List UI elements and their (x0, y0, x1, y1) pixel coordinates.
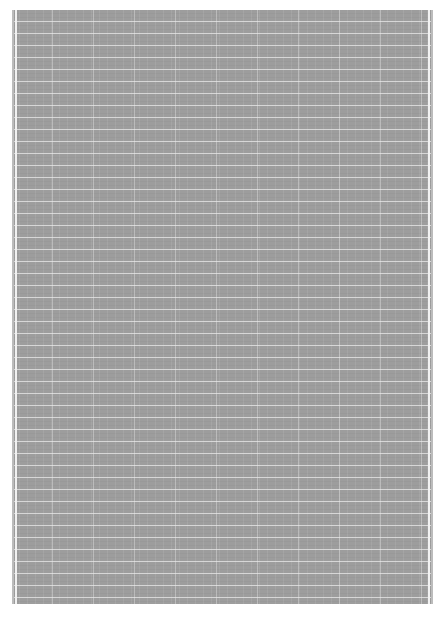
page-right-edge (431, 10, 433, 604)
grid-paper-page (12, 10, 433, 604)
right-margin-line (428, 10, 430, 604)
page-left-edge (12, 10, 14, 604)
left-margin-line (15, 10, 17, 604)
